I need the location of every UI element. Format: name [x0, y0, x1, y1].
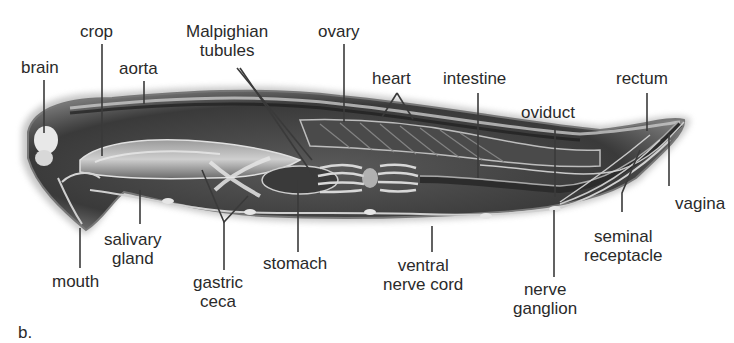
label-salivary-line1: salivary — [104, 230, 162, 249]
insect-body-illustration — [0, 0, 734, 343]
label-malpighian-line2: tubules — [186, 41, 268, 60]
label-nerve-line1: nerve — [513, 280, 577, 299]
label-oviduct: oviduct — [521, 103, 575, 122]
label-malpighian-line1: Malpighian — [186, 22, 268, 41]
label-aorta: aorta — [119, 59, 158, 78]
label-ventral-nerve-cord: ventral nerve cord — [383, 256, 463, 294]
insect-anatomy-diagram: brain crop aorta Malpighian tubules ovar… — [0, 0, 734, 343]
label-gastric-ceca: gastric ceca — [193, 273, 243, 311]
label-salivary-gland: salivary gland — [104, 230, 162, 268]
label-nerve-line2: ganglion — [513, 299, 577, 318]
label-vagina: vagina — [675, 194, 725, 213]
label-heart: heart — [372, 69, 411, 88]
label-salivary-line2: gland — [104, 249, 162, 268]
label-seminal-line1: seminal — [584, 227, 662, 246]
label-nerve-ganglion: nerve ganglion — [513, 280, 577, 318]
label-ventral-line2: nerve cord — [383, 275, 463, 294]
label-crop: crop — [80, 22, 113, 41]
label-intestine: intestine — [443, 69, 506, 88]
label-mouth: mouth — [52, 272, 99, 291]
label-stomach: stomach — [263, 254, 327, 273]
label-seminal-receptacle: seminal receptacle — [584, 227, 662, 265]
label-seminal-line2: receptacle — [584, 246, 662, 265]
label-gastric-line1: gastric — [193, 273, 243, 292]
label-rectum: rectum — [616, 69, 668, 88]
panel-label: b. — [18, 323, 32, 342]
label-ventral-line1: ventral — [383, 256, 463, 275]
stomach — [262, 166, 338, 194]
label-malpighian-tubules: Malpighian tubules — [186, 22, 268, 60]
label-ovary: ovary — [318, 22, 360, 41]
label-brain: brain — [21, 58, 59, 77]
label-gastric-line2: ceca — [193, 292, 243, 311]
